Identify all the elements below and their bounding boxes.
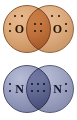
oxygen-orbital-stage: O O — [0, 2, 77, 59]
nitrogen-molecule-diagram: N N — [0, 62, 77, 119]
oxygen-molecule-diagram: O O — [0, 2, 77, 59]
oxygen-right-orbital-circle — [26, 5, 74, 53]
lewis-structure-figure: O O — [0, 0, 77, 120]
nitrogen-orbital-stage: N N — [0, 62, 77, 119]
nitrogen-right-orbital-circle — [26, 65, 74, 113]
